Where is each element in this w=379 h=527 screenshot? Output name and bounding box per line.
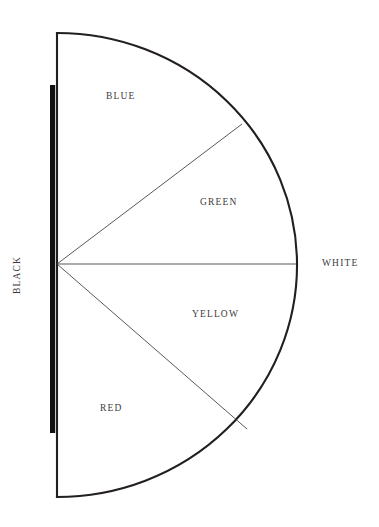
region-label-green: GREEN xyxy=(200,198,237,208)
blue-green-divider xyxy=(57,124,242,264)
yellow-red-divider xyxy=(57,264,247,429)
axis-label-black: BLACK xyxy=(13,250,23,300)
figure-root: BLUE GREEN YELLOW RED WHITE BLACK xyxy=(0,0,379,527)
black-pole-bar xyxy=(50,85,55,433)
axis-label-white: WHITE xyxy=(322,259,358,269)
region-label-red: RED xyxy=(100,404,122,414)
region-label-yellow: YELLOW xyxy=(192,310,239,320)
region-label-blue: BLUE xyxy=(106,92,135,102)
semicircle-arc xyxy=(57,33,297,497)
